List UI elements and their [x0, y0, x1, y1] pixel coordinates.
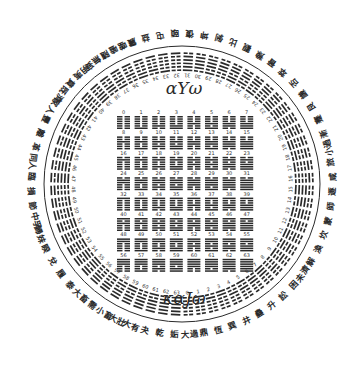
- ring-label: 節: [28, 201, 39, 211]
- ring-number: 28: [215, 78, 223, 86]
- grid-number: 32: [120, 191, 126, 197]
- ring-label: 晉: [265, 56, 278, 69]
- ring-hexagram: 45: [53, 147, 81, 163]
- ring-label: 坎: [317, 229, 329, 241]
- grid-number: 12: [191, 129, 197, 135]
- grid-hexagram: 11: [170, 129, 183, 149]
- grid-hexagram: 26: [152, 170, 165, 190]
- hexagram-circle-diagram: 0123456789101112131415161718192021222324…: [0, 0, 364, 371]
- ring-hexagram: 17: [286, 160, 313, 173]
- ring-hexagram: 53: [67, 234, 94, 256]
- grid-number: 63: [244, 252, 250, 258]
- ring-number: 56: [105, 260, 114, 269]
- ring-label: 損: [26, 187, 36, 196]
- grid-number: 46: [226, 211, 232, 217]
- ring-label: 同人: [27, 152, 40, 171]
- ring-number: 37: [122, 87, 131, 95]
- ring-label: 否: [287, 76, 301, 90]
- ring-number: 40: [97, 107, 106, 116]
- grid-hexagram: 5: [205, 109, 218, 129]
- grid-number: 40: [120, 211, 126, 217]
- grid-hexagram: 46: [223, 211, 236, 231]
- grid-number: 56: [120, 252, 126, 258]
- grid-hexagram: 14: [223, 129, 236, 149]
- ring-number: 42: [85, 124, 93, 133]
- grid-number: 30: [226, 170, 232, 176]
- ring-number: 5: [235, 274, 241, 281]
- ring-hexagram: 60: [133, 282, 151, 310]
- ring-label: 遯: [327, 187, 337, 196]
- ring-number: 18: [284, 154, 291, 162]
- ring-number: 21: [271, 124, 279, 133]
- grid-hexagram: 52: [187, 231, 200, 251]
- grid-number: 1: [140, 109, 143, 115]
- ring-number: 44: [76, 143, 84, 151]
- ring-hexagram: 46: [51, 160, 78, 173]
- grid-number: 55: [244, 231, 250, 237]
- grid-hexagram: 20: [187, 150, 200, 170]
- grid-hexagram: 58: [152, 252, 165, 272]
- ring-label: 頤: [170, 28, 179, 38]
- grid-number: 9: [140, 129, 143, 135]
- ring-hexagram: 31: [182, 52, 193, 79]
- grid-number: 17: [138, 150, 144, 156]
- grid-hexagram: 41: [135, 211, 148, 231]
- grid-hexagram: 35: [170, 191, 183, 211]
- ring-label: 大過: [180, 329, 198, 340]
- grid-number: 16: [120, 150, 126, 156]
- grid-number: 35: [173, 191, 179, 197]
- grid-number: 50: [156, 231, 162, 237]
- ring-number: 47: [70, 175, 76, 182]
- grid-number: 42: [156, 211, 162, 217]
- ring-hexagram: 3: [213, 282, 231, 310]
- grid-number: 4: [192, 109, 195, 115]
- grid-number: 6: [228, 109, 231, 115]
- grid-hexagram: 12: [187, 129, 200, 149]
- grid-number: 13: [208, 129, 214, 135]
- ring-hexagram: 28: [213, 58, 231, 86]
- grid-hexagram: 48: [117, 231, 130, 251]
- ring-number: 54: [91, 244, 100, 253]
- grid-hexagram: 25: [135, 170, 148, 190]
- grid-number: 34: [156, 191, 162, 197]
- grid-hexagram: 30: [223, 170, 236, 190]
- grid-number: 27: [173, 170, 179, 176]
- ring-label: 艮: [304, 100, 317, 113]
- ring-label: 井: [240, 314, 252, 327]
- grid-number: 19: [173, 150, 179, 156]
- ring-label: 比: [227, 36, 239, 48]
- grid-hexagram: 33: [135, 191, 148, 211]
- ring-number: 46: [71, 164, 78, 171]
- grid-hexagram: 60: [187, 252, 200, 272]
- ring-number: 41: [91, 115, 100, 124]
- grid-number: 39: [244, 191, 250, 197]
- grid-hexagram: 44: [187, 211, 200, 231]
- ring-label: 離: [34, 127, 46, 139]
- grid-hexagram: 49: [135, 231, 148, 251]
- grid-number: 38: [226, 191, 232, 197]
- ring-label: 歸妹: [33, 225, 48, 245]
- grid-hexagram: 8: [117, 129, 130, 149]
- grid-hexagram: 47: [240, 211, 253, 231]
- ring-label: 師: [325, 201, 336, 211]
- grid-hexagram: 59: [170, 252, 183, 272]
- grid-number: 0: [122, 109, 125, 115]
- ring-label: 剝: [213, 32, 224, 44]
- ring-number: 23: [258, 107, 267, 116]
- ring-number: 16: [287, 175, 293, 182]
- ring-number: 25: [242, 93, 251, 102]
- ring-label: 恆: [212, 324, 224, 336]
- ring-number: 35: [141, 78, 149, 86]
- ring-number: 48: [70, 186, 76, 193]
- ring-number: 34: [152, 75, 160, 82]
- ring-number: 27: [224, 82, 232, 90]
- ring-hexagram: 14: [286, 195, 313, 208]
- grid-number: 48: [120, 231, 126, 237]
- grid-number: 61: [208, 252, 214, 258]
- ring-label: 履: [54, 266, 68, 280]
- ring-number: 11: [276, 226, 284, 234]
- ring-number: 14: [286, 196, 293, 203]
- grid-number: 14: [226, 129, 232, 135]
- grid-hexagram: 63: [240, 252, 253, 272]
- ring-label: 家人: [44, 96, 62, 117]
